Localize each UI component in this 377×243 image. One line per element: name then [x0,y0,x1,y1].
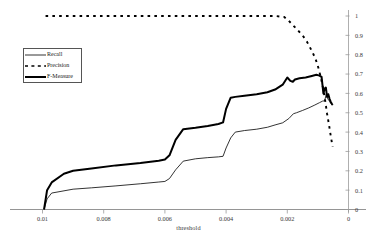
y-tick-label: 1 [355,12,358,19]
legend-item-precision[interactable]: Precision [24,60,81,71]
legend-label-precision: Precision [47,62,69,69]
legend-item-fmeasure[interactable]: F-Measure [24,71,81,82]
y-tick-label: 0.5 [355,109,363,116]
x-axis-ticks [43,210,349,214]
x-tick-label: 0.002 [280,215,294,222]
x-tick-label: 0 [347,215,350,222]
y-tick-label: 0.3 [355,148,363,155]
legend-label-recall: Recall [47,51,62,58]
y-tick-label: 0.9 [355,32,363,39]
chart-plot-area [0,0,377,243]
legend-item-recall[interactable]: Recall [24,49,81,60]
series-line-recall [44,93,333,209]
legend-swatch-precision [24,61,47,71]
x-axis-title: threshold [0,224,377,231]
y-tick-label: 0.4 [355,129,363,136]
series-line-f-measure [44,75,333,210]
y-tick-label: 0.7 [355,70,363,77]
y-tick-label: 0 [355,206,358,213]
legend-swatch-recall [24,50,47,60]
x-tick-label: 0.01 [37,215,48,222]
x-tick-label: 0.008 [97,215,111,222]
chart-container: 0.010.0080.0060.0040.002000.10.20.30.40.… [0,0,377,243]
y-tick-label: 0.2 [355,167,363,174]
legend-label-fmeasure: F-Measure [47,73,73,80]
y-tick-label: 0.1 [355,187,363,194]
x-tick-label: 0.006 [158,215,172,222]
legend-swatch-fmeasure [24,72,47,82]
y-tick-label: 0.6 [355,90,363,97]
x-tick-label: 0.004 [219,215,233,222]
chart-legend: Recall Precision F-Measure [23,48,82,83]
data-series-layer [44,16,333,210]
axis-lines [10,10,366,212]
y-tick-label: 0.8 [355,51,363,58]
